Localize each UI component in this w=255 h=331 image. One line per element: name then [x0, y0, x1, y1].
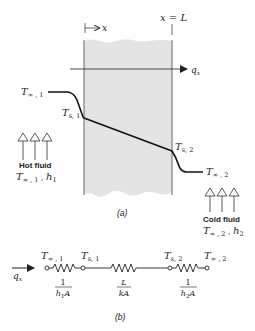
- hot-fluid-properties: T∞ , 1 , h1: [16, 171, 57, 184]
- resistor-convection-2: [172, 264, 205, 272]
- node-label-t-inf-2: T∞ , 2: [204, 250, 226, 263]
- t-s-1-label: Ts, 1: [62, 107, 80, 120]
- resistor-conduction: [111, 264, 136, 272]
- panel-a: x = L x qx T∞ , 1 Ts, 1 Ts, 2 T∞ , 2: [16, 12, 244, 238]
- node-label-t-s-1: Ts, 1: [81, 250, 99, 263]
- resistance-label-3: 1 h2A: [180, 278, 197, 299]
- svg-text:1: 1: [185, 278, 190, 287]
- svg-text:kA: kA: [119, 289, 130, 298]
- plane-wall: [84, 39, 172, 197]
- x-equals-L-label: x = L: [160, 12, 187, 23]
- node-t-inf-1: [45, 266, 49, 270]
- node-label-t-inf-1: T∞ , 1: [41, 250, 63, 263]
- svg-text:h2A: h2A: [181, 289, 196, 299]
- x-axis-label: x: [102, 23, 107, 33]
- node-t-inf-2: [205, 266, 209, 270]
- panel-b-caption: (b): [115, 312, 126, 322]
- resistance-label-1: 1 h1A: [55, 278, 72, 299]
- cold-fluid-flow-arrows: [205, 188, 239, 212]
- svg-text:1: 1: [60, 278, 65, 287]
- heat-flux-label-a: qx: [191, 65, 201, 76]
- svg-text:h1A: h1A: [56, 289, 71, 299]
- svg-text:L: L: [120, 278, 126, 287]
- resistor-convection-1: [49, 264, 81, 272]
- t-inf-1-label: T∞ , 1: [21, 86, 43, 99]
- resistance-label-2: L kA: [117, 278, 131, 298]
- cold-fluid-label: Cold fluid: [203, 215, 240, 224]
- cold-fluid-properties: T∞ , 2 , h2: [203, 225, 244, 238]
- panel-a-caption: (a): [117, 208, 128, 218]
- node-t-s-1: [81, 266, 85, 270]
- node-t-s-2: [168, 266, 172, 270]
- t-inf-2-label: T∞ , 2: [206, 166, 228, 179]
- circuit-heat-flux-label: qx: [13, 271, 23, 282]
- thermal-circuit-figure: x = L x qx T∞ , 1 Ts, 1 Ts, 2 T∞ , 2: [0, 0, 255, 331]
- node-label-t-s-2: Ts, 2: [164, 250, 182, 263]
- panel-b-thermal-circuit: qx T∞ , 1 Ts, 1 Ts, 2 T∞ , 2: [12, 250, 226, 322]
- t-s-2-label: Ts, 2: [175, 141, 193, 154]
- hot-fluid-label: Hot fluid: [19, 161, 52, 170]
- hot-fluid-flow-arrows: [18, 133, 52, 160]
